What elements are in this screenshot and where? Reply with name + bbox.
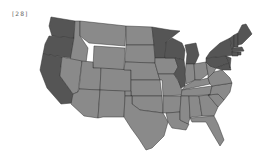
state-nm [98, 90, 125, 118]
state-nd [126, 26, 154, 45]
state-ks [131, 80, 162, 96]
state-co [100, 68, 131, 92]
state-ar [163, 96, 181, 113]
state-mt [80, 21, 126, 46]
state-oh [194, 62, 208, 80]
state-ny [206, 38, 234, 58]
state-wy [93, 46, 125, 70]
state-ct [232, 52, 238, 56]
state-ms [180, 96, 190, 124]
state-wi [165, 38, 185, 60]
state-ma [232, 47, 244, 52]
state-wa [49, 17, 75, 38]
state-me [238, 24, 252, 45]
state-az [71, 89, 100, 118]
state-ia [155, 58, 178, 74]
state-sd [125, 45, 155, 63]
state-fl [190, 116, 224, 146]
state-nh [234, 33, 238, 47]
state-ri [238, 52, 241, 55]
us-choropleth-map [0, 0, 273, 166]
state-mi [185, 43, 199, 64]
